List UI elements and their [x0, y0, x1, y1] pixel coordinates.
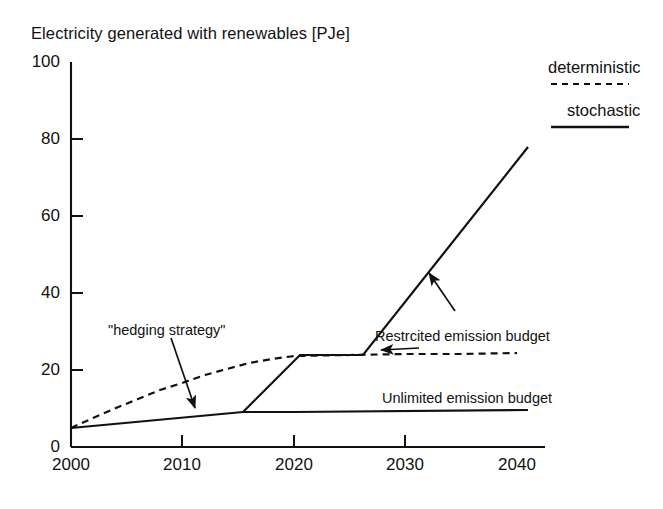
- series-line-stochastic-hedging: [71, 412, 243, 428]
- x-axis-ticks: [182, 435, 405, 447]
- axis-lines: [71, 62, 545, 447]
- series-line-restricted-emission-budget: [243, 147, 528, 412]
- annotation-arrow-restricted-upper: [429, 273, 455, 311]
- series-line-unlimited-emission-budget: [243, 410, 528, 412]
- annotation-arrow-restricted-lower: [381, 348, 419, 350]
- chart-plot-svg: [0, 0, 663, 509]
- series-line-deterministic: [71, 353, 517, 428]
- annotation-arrow-hedging: [171, 338, 195, 408]
- y-axis-ticks: [71, 139, 83, 370]
- chart-figure: Electricity generated with renewables [P…: [0, 0, 663, 509]
